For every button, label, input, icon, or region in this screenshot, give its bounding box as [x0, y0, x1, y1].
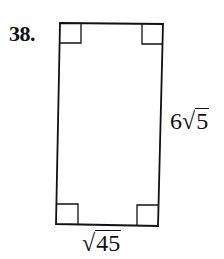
- problem-number: 38.: [9, 21, 35, 47]
- side-radicand: 5: [195, 108, 209, 133]
- right-angle-mark-bottom-right: [137, 205, 158, 226]
- bottom-radicand: 45: [95, 230, 121, 255]
- right-angle-mark-top-left: [60, 23, 81, 43]
- side-length-label: 6√5: [170, 108, 209, 135]
- right-angle-mark-bottom-left: [56, 204, 78, 224]
- rectangle-outline: [56, 23, 163, 226]
- radical-sign: √: [182, 108, 195, 135]
- side-coefficient: 6: [170, 108, 182, 134]
- bottom-length-label: √45: [82, 230, 121, 257]
- radical-sign: √: [82, 230, 95, 257]
- right-angle-mark-top-right: [142, 24, 163, 44]
